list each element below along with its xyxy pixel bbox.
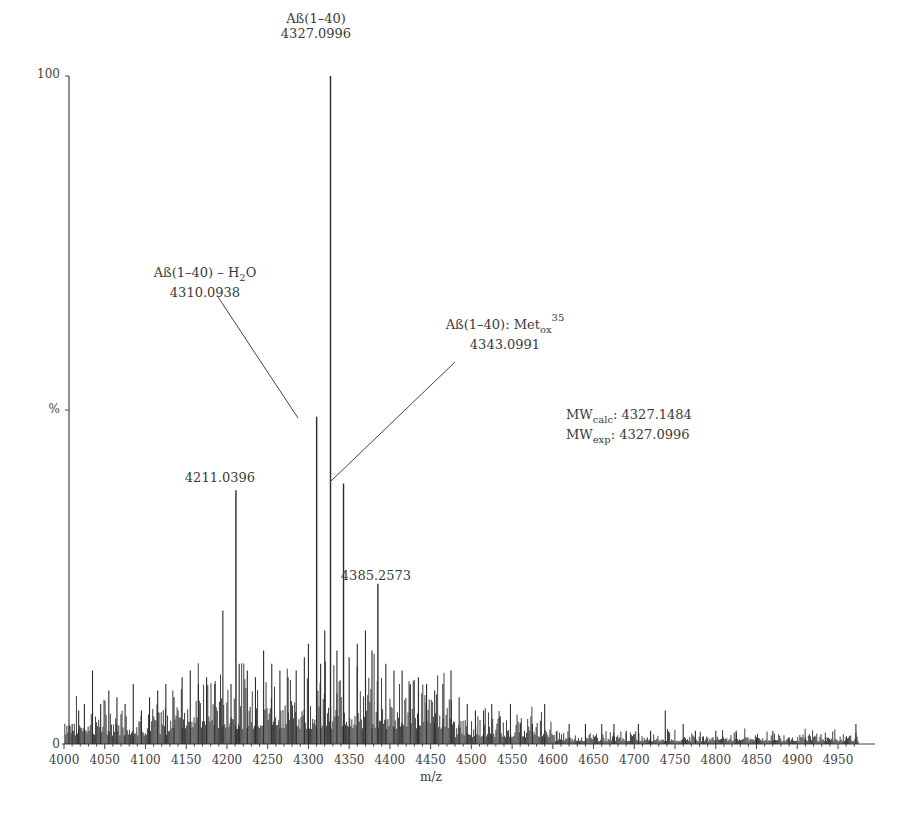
mw-calc-sub: calc	[593, 414, 613, 425]
annotation-h2o-peak: Aß(1–40) – H2O 4310.0938	[130, 265, 280, 300]
x-tick-label: 4900	[782, 753, 813, 767]
molecular-weight-summary: MWcalc: 4327.1484 MWexp: 4327.0996	[566, 407, 692, 446]
x-tick-label: 4400	[375, 753, 406, 767]
x-tick-label: 4950	[823, 753, 854, 767]
mw-exp-value: : 4327.0996	[611, 427, 690, 442]
x-tick-label: 4000	[49, 753, 80, 767]
met-prefix: Aß(1–40): Met	[446, 317, 540, 332]
x-tick-label: 4800	[701, 753, 732, 767]
met-peak-name: Aß(1–40): Metox35	[420, 313, 590, 337]
x-tick-label: 4300	[293, 753, 324, 767]
x-tick-label: 4250	[252, 753, 283, 767]
x-tick-label: 4600	[538, 753, 569, 767]
met-sub: ox	[540, 324, 552, 335]
main-peak-name: Aß(1–40)	[276, 11, 356, 26]
mw-calc-prefix: MW	[566, 407, 593, 422]
x-tick-label: 4350	[334, 753, 365, 767]
x-tick-label: 4700	[619, 753, 650, 767]
mass-spectrum-chart: 100 % 0 40004050410041504200425043004350…	[0, 0, 909, 824]
annotation-peak-4211: 4211.0396	[180, 470, 260, 485]
x-tick-label: 4200	[212, 753, 243, 767]
x-tick-label: 4550	[497, 753, 528, 767]
mw-exp: MWexp: 4327.0996	[566, 427, 692, 447]
mw-calc-value: : 4327.1484	[613, 407, 692, 422]
main-peak-mz: 4327.0996	[276, 26, 356, 41]
x-tick-label: 4650	[578, 753, 609, 767]
annotation-peak-4385: 4385.2573	[336, 568, 416, 583]
x-tick-label: 4150	[171, 753, 202, 767]
mw-exp-sub: exp	[593, 433, 611, 444]
y-axis-label-0: 0	[20, 737, 60, 751]
plot-area	[0, 0, 909, 824]
h2o-prefix: Aß(1–40) – H	[154, 265, 240, 280]
x-tick-label: 4850	[741, 753, 772, 767]
x-tick-label: 4500	[456, 753, 487, 767]
x-tick-label: 4750	[660, 753, 691, 767]
x-axis-title: m/z	[420, 770, 442, 785]
annotation-main-peak: Aß(1–40) 4327.0996	[276, 11, 356, 41]
mw-calc: MWcalc: 4327.1484	[566, 407, 692, 427]
mw-exp-prefix: MW	[566, 427, 593, 442]
met-sup: 35	[552, 312, 565, 323]
annotation-met-peak: Aß(1–40): Metox35 4343.0991	[420, 313, 590, 352]
x-tick-label: 4050	[89, 753, 120, 767]
h2o-peak-mz: 4310.0938	[130, 285, 280, 300]
h2o-suffix: O	[246, 265, 257, 280]
y-axis-label-100: 100	[20, 67, 60, 81]
x-tick-label: 4450	[415, 753, 446, 767]
y-axis-label-percent: %	[20, 402, 60, 416]
x-tick-label: 4100	[130, 753, 161, 767]
h2o-peak-name: Aß(1–40) – H2O	[130, 265, 280, 285]
met-peak-mz: 4343.0991	[420, 337, 590, 352]
